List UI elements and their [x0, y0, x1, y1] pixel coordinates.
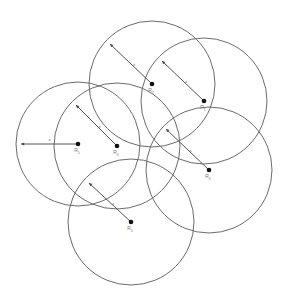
- radius-line-center: [76, 105, 117, 146]
- radius-line-top-right: [162, 61, 204, 101]
- node-label-right: R6: [205, 173, 211, 181]
- center-dot-top-right: [202, 99, 207, 104]
- radius-label-x: x: [132, 62, 136, 67]
- radius-label-x: x: [184, 79, 188, 84]
- node-label-left: R5: [74, 147, 80, 155]
- center-dot-top-center: [150, 82, 155, 87]
- radius-label-x: x: [111, 201, 115, 206]
- circle-layer: [16, 21, 272, 285]
- radius-line-top-center: [110, 44, 152, 84]
- node-label-center: R4: [113, 149, 119, 157]
- center-dot-left: [76, 142, 81, 147]
- radius-layer: [21, 44, 209, 222]
- radius-label-x: x: [97, 124, 101, 129]
- radius-line-bottom: [89, 183, 131, 222]
- coverage-diagram: xR2xR1xR5xR4xR6xR3: [0, 0, 287, 299]
- radius-line-right: [166, 129, 209, 170]
- center-dot-right: [207, 168, 212, 173]
- radius-label-x: x: [188, 148, 192, 153]
- radius-label-x: x: [47, 137, 51, 142]
- arrowhead-icon: [21, 142, 24, 145]
- center-dot-bottom: [129, 220, 134, 225]
- center-dot-center: [115, 144, 120, 149]
- node-label-top-center: R2: [148, 87, 154, 95]
- node-label-bottom: R3: [127, 225, 133, 233]
- node-label-top-right: R1: [200, 104, 206, 112]
